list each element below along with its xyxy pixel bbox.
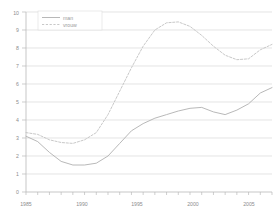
x-tick-label: 2000: [187, 201, 199, 207]
y-tick-labels: 0 1 2 3 4 5 6 7 8 9 10: [13, 10, 19, 196]
x-minor-ticks: [26, 192, 272, 195]
legend: man vrouw: [38, 11, 102, 30]
y-tick-label: 10: [13, 10, 19, 16]
chart-canvas: 0 1 2 3 4 5 6 7 8 9 10 1985 1990 1995 20…: [0, 0, 279, 216]
line-chart: 0 1 2 3 4 5 6 7 8 9 10 1985 1990 1995 20…: [0, 0, 279, 216]
y-axis: [22, 12, 26, 192]
x-tick-label: 2005: [243, 201, 255, 207]
gridlines: [26, 12, 272, 174]
y-tick-label: 1: [16, 171, 19, 177]
y-tick-label: 0: [16, 189, 19, 195]
y-tick-label: 4: [16, 117, 19, 123]
x-tick-label: 1985: [20, 201, 32, 207]
y-tick-label: 7: [16, 63, 19, 69]
y-tick-label: 2: [16, 153, 19, 159]
series-line-vrouw: [26, 22, 272, 143]
y-tick-label: 6: [16, 81, 19, 87]
y-tick-label: 8: [16, 45, 19, 51]
legend-label-vrouw: vrouw: [63, 22, 77, 28]
y-tick-label: 3: [16, 135, 19, 141]
x-tick-label: 1995: [131, 201, 143, 207]
x-tick-labels: 1985 1990 1995 2000 2005: [20, 201, 255, 207]
y-tick-label: 9: [16, 27, 19, 33]
y-tick-label: 5: [16, 99, 19, 105]
series-line-man: [26, 88, 272, 165]
x-tick-label: 1990: [76, 201, 88, 207]
legend-label-man: man: [63, 15, 73, 21]
